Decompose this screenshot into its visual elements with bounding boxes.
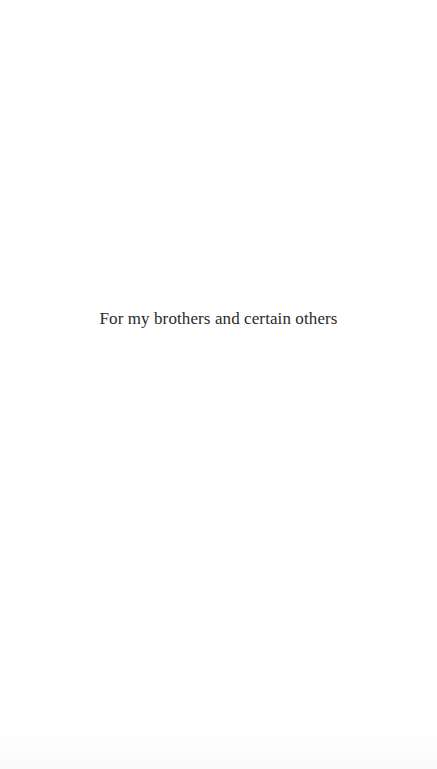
- book-page: For my brothers and certain others: [0, 0, 437, 769]
- dedication-text: For my brothers and certain others: [0, 308, 437, 330]
